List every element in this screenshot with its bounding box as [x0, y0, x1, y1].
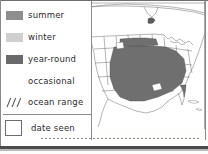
legend-item-label: year-round: [28, 55, 76, 64]
lake-detail: [170, 41, 185, 45]
legend-item-ocean-range[interactable]: ocean range: [6, 96, 83, 109]
hudson-bay: [144, 7, 158, 17]
legend-items-list: summer winter year-round occasional ocea…: [1, 1, 92, 113]
legend-item-year-round[interactable]: year-round: [6, 53, 76, 66]
atlantic-coast: [189, 33, 205, 75]
legend-divider: [3, 114, 91, 115]
legend-item-label: winter: [28, 33, 56, 42]
northern-outlier-patch: [148, 18, 155, 24]
summer-swatch-icon: [6, 11, 23, 20]
state-line-v8: [188, 49, 192, 73]
legend-item-occasional[interactable]: occasional: [6, 75, 75, 88]
legend-item-winter[interactable]: winter: [6, 31, 56, 44]
date-seen-checkbox[interactable]: [5, 120, 22, 136]
state-line-v1: [104, 37, 108, 85]
pacific-coast: [92, 37, 108, 99]
date-seen-write-in-line[interactable]: [41, 138, 201, 139]
legend-item-summer[interactable]: summer: [6, 9, 64, 22]
legend-item-label: occasional: [28, 77, 75, 86]
canada-north-edge: [92, 3, 205, 13]
legend-item-label: summer: [28, 11, 64, 20]
date-seen-row[interactable]: date seen: [5, 120, 75, 136]
winter-swatch-icon: [6, 33, 23, 42]
year-round-swatch-icon: [6, 55, 23, 64]
range-map-figure: summer winter year-round occasional ocea…: [0, 0, 208, 154]
caribbean-islands: [188, 100, 202, 111]
ocean-range-hatch-swatch-icon: [6, 98, 23, 107]
frame-right-border: [205, 0, 206, 140]
date-seen-label: date seen: [31, 124, 75, 133]
frame-bottom-shadow: [0, 149, 208, 151]
great-lakes-outline: [164, 35, 193, 45]
legend-item-label: ocean range: [28, 98, 83, 107]
baja-peninsula: [98, 99, 108, 127]
occasional-stipple-swatch-icon: [6, 77, 23, 86]
north-america-range-map[interactable]: [92, 1, 205, 129]
